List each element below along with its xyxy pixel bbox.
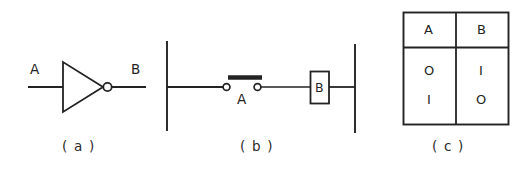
switch-label: A xyxy=(237,93,247,107)
truth-table-header-a: A xyxy=(424,23,433,36)
inverter-bubble-icon xyxy=(103,83,111,91)
truth-table-cell-b-row1: O xyxy=(476,93,487,106)
truth-table-cell-b-row0: I xyxy=(479,64,483,77)
caption-panel-b: ( b ) xyxy=(240,140,274,154)
panel-c-truth-table xyxy=(404,13,509,125)
figure-inverter-equivalents: A B ( a ) A B ( b ) A B O I I O ( c ) xyxy=(0,0,529,176)
truth-table-cell-a-row1: I xyxy=(427,93,431,106)
inverter-triangle-body xyxy=(63,62,103,112)
truth-table-header-b: B xyxy=(477,23,486,36)
panel-a-inverter xyxy=(28,62,146,112)
caption-panel-a: ( a ) xyxy=(62,140,95,154)
switch-terminal-right xyxy=(254,84,261,91)
inverter-input-label: A xyxy=(30,63,40,77)
relay-coil-label: B xyxy=(315,82,324,95)
panel-b-relay-circuit xyxy=(167,41,355,133)
inverter-output-label: B xyxy=(131,63,141,77)
truth-table-cell-a-row0: O xyxy=(424,64,435,77)
caption-panel-c: ( c ) xyxy=(432,140,465,154)
switch-terminal-left xyxy=(223,84,230,91)
